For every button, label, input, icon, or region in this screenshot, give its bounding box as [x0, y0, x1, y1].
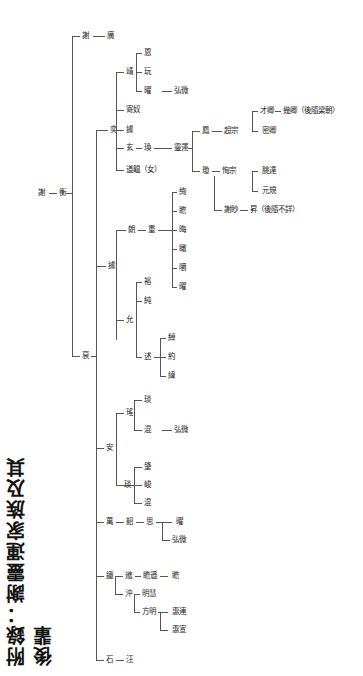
edge	[172, 249, 177, 250]
edge	[49, 193, 57, 194]
edge	[116, 148, 124, 149]
name: 鐵	[106, 571, 113, 580]
node: 元規	[262, 186, 276, 195]
node: 述	[144, 352, 151, 361]
name: 元規	[262, 186, 276, 195]
node: 韶	[126, 517, 133, 526]
node: 方明	[142, 607, 156, 616]
spine-lingyun	[192, 131, 193, 171]
edge	[134, 612, 140, 613]
node: 寄奴	[126, 105, 140, 114]
edge	[172, 211, 177, 212]
name: 謝眇	[224, 205, 238, 214]
edge	[252, 111, 258, 112]
edge	[192, 171, 200, 172]
node: 惠連	[172, 607, 186, 616]
edge	[134, 503, 142, 504]
node: 弘微	[172, 535, 186, 544]
node: 允	[126, 315, 133, 324]
node: 嚼	[179, 263, 186, 272]
node: 沖	[125, 589, 132, 598]
name: 惠連	[172, 607, 186, 616]
node: 幾卿（後隨梁朝）	[283, 106, 339, 115]
edge	[172, 230, 177, 231]
node: 峻	[144, 480, 151, 489]
edge	[162, 522, 172, 523]
name: 晦	[179, 225, 186, 234]
title-text: 附錄：謝靈運家族及其後輩	[2, 440, 56, 666]
name: 混	[144, 498, 151, 507]
node-lingyun: 靈運	[174, 143, 188, 152]
name: 謝	[82, 31, 89, 40]
name: 瞻遜	[143, 571, 157, 580]
node: 玩	[144, 67, 151, 76]
spine	[115, 576, 116, 594]
node: 緯	[168, 371, 175, 380]
node-shi: 石	[106, 655, 113, 664]
name: 石	[106, 655, 113, 664]
node: 據	[108, 261, 115, 270]
node: 曜	[179, 282, 186, 291]
name: 重	[148, 225, 155, 234]
edge	[188, 148, 192, 149]
node: 重	[148, 225, 155, 234]
name: 瞰	[179, 244, 186, 253]
edge	[135, 576, 141, 577]
node: 混	[144, 425, 151, 434]
node-tie: 鐵	[106, 571, 113, 580]
edge	[116, 230, 126, 231]
edge	[115, 594, 123, 595]
edge	[96, 660, 104, 661]
edge	[252, 191, 258, 192]
name: 據	[108, 261, 115, 270]
edge	[134, 594, 140, 595]
edge	[136, 148, 142, 149]
name: 恂宗	[222, 166, 236, 175]
name: 允	[126, 315, 133, 324]
node: 朗	[128, 225, 135, 234]
name: 昇（後隨不詳）	[250, 205, 299, 214]
edge	[162, 540, 170, 541]
edge	[116, 170, 124, 171]
node: 弘微	[174, 86, 188, 95]
edge	[138, 230, 146, 231]
name: 琰	[124, 480, 131, 489]
edge	[116, 130, 124, 131]
name: 玄	[126, 143, 133, 152]
name: 琰	[144, 395, 151, 404]
node: 鳳	[202, 126, 209, 135]
node: 思	[146, 517, 153, 526]
node: 明慧	[142, 589, 156, 598]
node: 弘微	[174, 425, 188, 434]
name: 弘微	[174, 86, 188, 95]
node: 曜	[144, 86, 151, 95]
name: 弘微	[174, 425, 188, 434]
spine	[134, 400, 135, 430]
edge	[116, 72, 124, 73]
spine-root	[72, 36, 73, 356]
node: 惠宣	[172, 625, 186, 634]
node-g1-top: 謝	[82, 31, 89, 40]
node: 超宗	[224, 126, 238, 135]
node: 瑤	[126, 408, 133, 417]
spine-yi	[116, 72, 117, 170]
node: 瞻遜	[143, 571, 157, 580]
spine	[134, 594, 135, 612]
spine	[172, 192, 173, 287]
name: 才卿	[260, 106, 274, 115]
name: 曜	[179, 282, 186, 291]
name: 瞻	[172, 571, 179, 580]
name: 瑤	[126, 408, 133, 417]
edge	[162, 91, 172, 92]
root-name-b: 衡	[59, 188, 66, 197]
edge	[136, 91, 142, 92]
edge	[136, 53, 142, 54]
node: 琰	[144, 395, 151, 404]
node: 汪	[126, 655, 133, 664]
edge	[172, 192, 177, 193]
edge	[136, 357, 142, 358]
name: 約	[168, 352, 175, 361]
edge	[72, 36, 80, 37]
edge	[160, 357, 166, 358]
edge	[93, 36, 105, 37]
